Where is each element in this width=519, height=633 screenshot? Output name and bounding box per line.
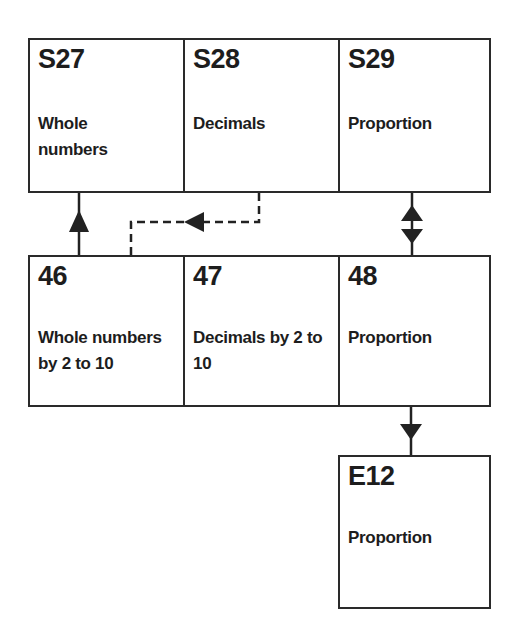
- arrowhead-up-icon: [69, 210, 89, 232]
- arrow-48-to-e12: [400, 407, 422, 455]
- arrowhead-left-icon: [184, 212, 204, 232]
- arrowhead-down-icon: [400, 424, 422, 440]
- arrowhead-up-icon: [401, 205, 423, 221]
- arrowhead-down-icon: [401, 229, 423, 244]
- arrow-48-s29-bidirectional: [401, 193, 423, 255]
- arrow-s28-to-46-dashed: [131, 193, 259, 255]
- arrow-46-to-s27: [69, 193, 89, 255]
- connectors: [0, 0, 519, 633]
